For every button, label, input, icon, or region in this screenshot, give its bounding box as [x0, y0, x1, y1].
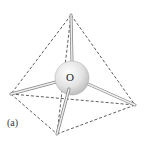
tetrahedron-diagram: O (a): [0, 0, 147, 147]
front-bond: [57, 89, 69, 134]
atom-label: O: [66, 71, 74, 83]
panel-label: (a): [7, 117, 18, 128]
